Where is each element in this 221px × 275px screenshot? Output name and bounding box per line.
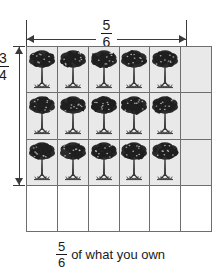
tree-icon — [120, 140, 150, 184]
tree-icon — [89, 94, 119, 138]
grid-cell-r3-c4 — [120, 140, 151, 186]
grid-cell-r4-c4 — [120, 186, 151, 232]
left-measure-label: 3 4 — [0, 48, 13, 86]
fraction-three-fourths: 3 4 — [0, 51, 9, 83]
tree-icon — [150, 94, 180, 138]
area-model-grid — [26, 46, 212, 232]
grid-cell-r2-c2 — [58, 93, 89, 139]
grid-cell-r3-c1 — [27, 140, 58, 186]
grid-cell-r3-c3 — [89, 140, 120, 186]
grid-cell-r3-c5 — [150, 140, 181, 186]
fraction-denominator: 6 — [56, 256, 67, 269]
fraction-numerator: 3 — [0, 51, 9, 65]
grid-cell-r2-c4 — [120, 93, 151, 139]
grid-cell-r4-c5 — [150, 186, 181, 232]
grid-cell-r1-c5 — [150, 47, 181, 93]
tree-icon — [58, 140, 88, 184]
arrow-down-icon — [15, 178, 23, 185]
grid-cell-r2-c3 — [89, 93, 120, 139]
top-measure-label: 5 6 — [26, 18, 187, 50]
tree-icon — [27, 140, 57, 184]
grid-cell-r3-c6 — [181, 140, 212, 186]
grid-cell-r2-c6 — [181, 93, 212, 139]
left-measure-bottom-tick — [13, 185, 25, 186]
arrow-up-icon — [15, 47, 23, 54]
tree-icon — [89, 140, 119, 184]
tree-icon — [120, 48, 150, 92]
tree-icon — [58, 94, 88, 138]
grid-cell-r1-c3 — [89, 47, 120, 93]
grid-cell-r3-c2 — [58, 140, 89, 186]
top-measure-bracket: 5 6 — [26, 20, 187, 46]
grid-cell-r4-c1 — [27, 186, 58, 232]
grid-cell-r4-c6 — [181, 186, 212, 232]
figure-caption: 5 6 of what you own — [0, 240, 221, 270]
fraction-five-sixths: 5 6 — [101, 18, 113, 50]
grid-cell-r2-c1 — [27, 93, 58, 139]
tree-icon — [27, 94, 57, 138]
grid-cell-r1-c2 — [58, 47, 89, 93]
fraction-numerator: 5 — [101, 18, 113, 32]
tree-icon — [27, 48, 57, 92]
tree-icon — [150, 140, 180, 184]
caption-fraction-five-sixths: 5 6 — [56, 240, 67, 270]
grid-cell-r2-c5 — [150, 93, 181, 139]
fraction-numerator: 5 — [56, 240, 67, 253]
fraction-denominator: 4 — [0, 68, 9, 82]
grid-cell-r1-c6 — [181, 47, 212, 93]
tree-icon — [150, 48, 180, 92]
tree-icon — [89, 48, 119, 92]
grid-cell-r4-c2 — [58, 186, 89, 232]
grid-cell-r1-c1 — [27, 47, 58, 93]
tree-icon — [58, 48, 88, 92]
caption-text: of what you own — [71, 247, 165, 262]
left-measure-line — [19, 47, 20, 185]
grid-cell-r1-c4 — [120, 47, 151, 93]
tree-icon — [120, 94, 150, 138]
grid-cell-r4-c3 — [89, 186, 120, 232]
